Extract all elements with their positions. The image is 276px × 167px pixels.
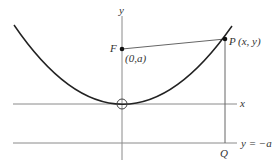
point-p-label: P [228,35,236,47]
directrix-label: y = −a [240,137,272,149]
foot-q-label: Q [220,147,228,159]
point-p-coords-label: (x, y) [238,35,261,48]
parabola-curve [14,25,232,104]
y-axis-label: y [118,4,124,16]
parabola-diagram: y x F (0,a) P (x, y) y = −a Q [0,0,276,167]
focus-label: F [109,42,117,54]
focus-coords-label: (0,a) [125,52,146,65]
point-p [223,37,228,42]
fp-segment [122,39,225,49]
x-axis-label: x [239,97,245,109]
focus-point [120,47,125,52]
